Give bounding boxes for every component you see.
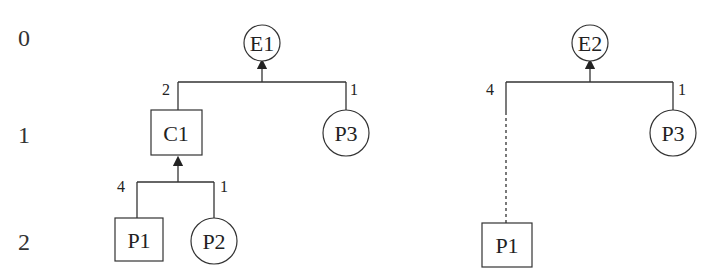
diagram-canvas: 0 1 2 2 1 E1 C1 P3 4 1 P1	[0, 0, 722, 278]
node-p1-tree1[interactable]: P1	[115, 218, 163, 261]
tree-2: 4 1 E2 P3 P1	[482, 25, 696, 267]
node-p2[interactable]: P2	[191, 218, 237, 264]
node-label: P1	[127, 228, 150, 253]
node-p3-tree2[interactable]: P3	[650, 110, 696, 156]
weight-p3: 1	[678, 81, 686, 98]
node-e2[interactable]: E2	[572, 25, 608, 61]
tree-1: 2 1 E1 C1 P3 4 1 P1 P2	[115, 25, 369, 264]
node-label: P3	[661, 121, 684, 146]
node-label: C1	[163, 121, 189, 146]
weight-c1: 2	[162, 81, 170, 98]
node-label: E1	[250, 31, 274, 56]
weight-p1: 4	[117, 178, 125, 195]
node-p3-tree1[interactable]: P3	[323, 110, 369, 156]
node-c1[interactable]: C1	[151, 110, 202, 155]
weight-p2: 1	[220, 178, 228, 195]
node-label: P1	[495, 233, 518, 258]
node-p1-tree2[interactable]: P1	[482, 223, 532, 267]
weight-p1: 4	[486, 81, 494, 98]
level-label-0: 0	[18, 25, 30, 51]
node-label: P2	[202, 229, 225, 254]
node-label: P3	[334, 121, 357, 146]
weight-p3: 1	[350, 81, 358, 98]
node-e1[interactable]: E1	[244, 25, 280, 61]
level-label-1: 1	[18, 122, 30, 148]
level-label-2: 2	[18, 229, 30, 255]
node-label: E2	[578, 31, 602, 56]
